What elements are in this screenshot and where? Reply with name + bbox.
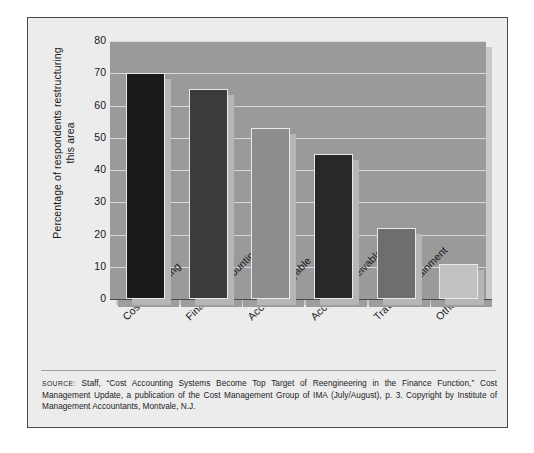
source-text: Staff, “Cost Accounting Systems Become T… — [42, 378, 497, 411]
y-tick-label: 60 — [80, 99, 106, 111]
bar-travel-entertainment[interactable] — [377, 228, 416, 299]
bar-chart: Percentage of respondents restructuring … — [28, 18, 509, 373]
y-tick-label: 20 — [80, 228, 106, 240]
bar-accounts-receivable[interactable] — [314, 154, 353, 299]
y-axis-tick-labels: 01020304050607080 — [78, 41, 106, 299]
bar-other[interactable] — [439, 264, 478, 299]
y-tick-label: 10 — [80, 260, 106, 272]
source-divider — [41, 370, 496, 371]
y-tick-label: 50 — [80, 131, 106, 143]
bar-financial-accounting[interactable] — [189, 89, 228, 299]
gridline — [110, 41, 486, 42]
source-note: Source: Staff, “Cost Accounting Systems … — [42, 378, 497, 413]
source-label: Source: — [42, 380, 76, 387]
y-tick-label: 40 — [80, 163, 106, 175]
y-tick-label: 80 — [80, 34, 106, 46]
gridline — [110, 73, 486, 74]
y-tick-label: 70 — [80, 66, 106, 78]
bar-accounts-payable[interactable] — [251, 128, 290, 299]
y-tick-label: 0 — [80, 292, 106, 304]
y-tick-label: 30 — [80, 195, 106, 207]
figure-frame: Percentage of respondents restructuring … — [27, 17, 508, 428]
bar-cost-accounting[interactable] — [126, 73, 165, 299]
